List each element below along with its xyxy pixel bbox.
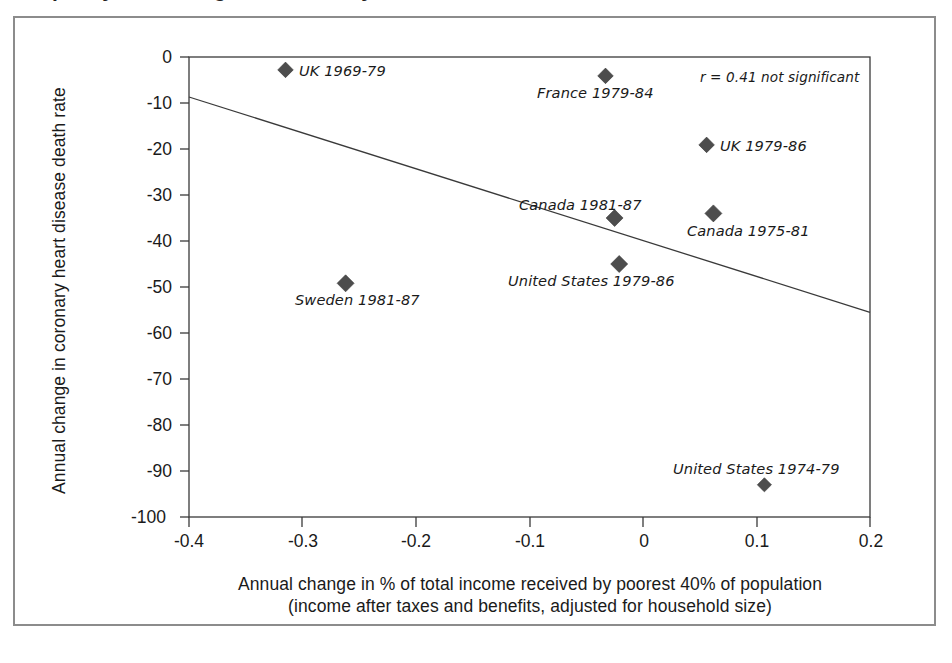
- scatter-chart: Annual change in coronary heart disease …: [0, 0, 952, 663]
- point-label-sweden-1981-87: Sweden 1981-87: [295, 291, 420, 308]
- x-axis-ticks: [189, 517, 870, 527]
- point-label-canada-1975-81: Canada 1975-81: [687, 222, 810, 239]
- point-label-canada-1981-87: Canada 1981-87: [519, 196, 642, 213]
- point-label-uk-1979-86: UK 1979-86: [720, 137, 807, 154]
- marker-uk-1979-86[interactable]: [699, 137, 715, 153]
- correlation-annotation: r = 0.41 not significant: [700, 69, 859, 85]
- point-label-uk-1969-79: UK 1969-79: [299, 62, 386, 79]
- marker-france-1979-84[interactable]: [598, 68, 614, 84]
- y-axis-ticks: [180, 57, 189, 517]
- marker-united-states-1979-86[interactable]: [611, 256, 628, 273]
- marker-united-states-1974-79[interactable]: [757, 478, 771, 492]
- point-label-united-states-1974-79: United States 1974-79: [673, 460, 840, 477]
- marker-sweden-1981-87[interactable]: [337, 275, 354, 292]
- point-label-united-states-1979-86: United States 1979-86: [508, 272, 675, 289]
- marker-uk-1969-79[interactable]: [278, 62, 294, 78]
- plot-canvas: [0, 0, 952, 663]
- point-label-france-1979-84: France 1979-84: [537, 84, 654, 101]
- marker-canada-1975-81[interactable]: [705, 205, 722, 222]
